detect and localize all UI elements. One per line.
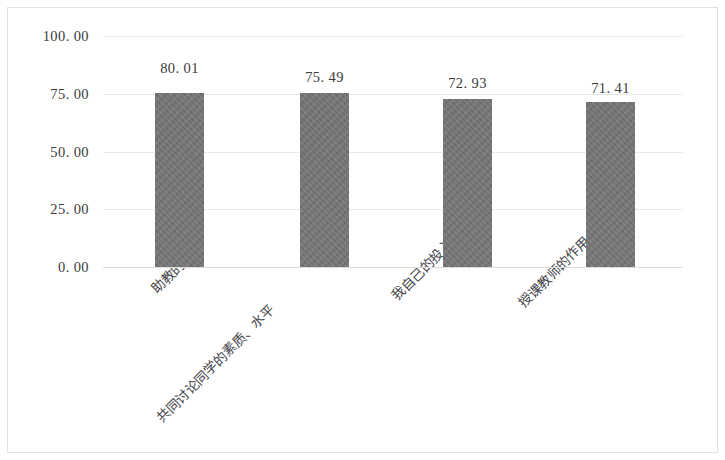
bar-1[interactable] bbox=[300, 93, 349, 267]
y-axis-tick-25: 25. 00 bbox=[50, 201, 89, 218]
x-axis-label-1: 共同讨论同学的素质、水平 bbox=[151, 299, 278, 426]
gridline-100: 100. 00 bbox=[103, 36, 683, 37]
gridline-0: 0. 00 bbox=[103, 267, 683, 268]
bar-value-0: 80. 01 bbox=[160, 60, 199, 77]
y-axis-tick-75: 75. 00 bbox=[50, 85, 89, 102]
bar-value-1: 75. 49 bbox=[305, 69, 344, 86]
bar-2[interactable] bbox=[443, 99, 492, 267]
bar-value-2: 72. 93 bbox=[448, 75, 487, 92]
plot-area: 100. 00 75. 00 50. 00 25. 00 0. 00 80. 0… bbox=[103, 36, 683, 267]
bar-value-3: 71. 41 bbox=[591, 80, 630, 97]
chart-page: 助教的工作 共同讨论同学的素质、水平 我自己的投入 授课教师的作用 100. 0… bbox=[0, 0, 725, 460]
y-axis-tick-0: 0. 00 bbox=[58, 259, 89, 276]
bar-3[interactable] bbox=[586, 102, 635, 267]
y-axis-tick-50: 50. 00 bbox=[50, 143, 89, 160]
y-axis-tick-100: 100. 00 bbox=[43, 28, 89, 45]
bar-0[interactable] bbox=[155, 93, 204, 267]
